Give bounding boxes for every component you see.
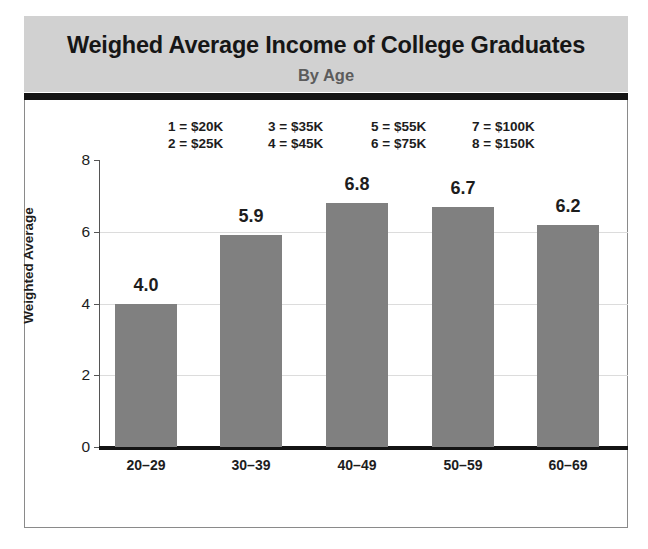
legend-entry: 1 = $20K — [168, 118, 223, 135]
y-tick-label: 4 — [30, 296, 90, 312]
bar[interactable] — [115, 304, 177, 448]
legend-column-1: 1 = $20K 2 = $25K — [168, 118, 223, 152]
y-tick-label: 6 — [30, 224, 90, 240]
legend-entry: 4 = $45K — [268, 135, 323, 152]
bar-value-label: 5.9 — [200, 207, 302, 225]
bar[interactable] — [432, 207, 494, 447]
x-tick-label: 60–69 — [512, 458, 624, 472]
legend-entry: 2 = $25K — [168, 135, 223, 152]
chart-subtitle: By Age — [24, 58, 628, 84]
legend-column-4: 7 = $100K 8 = $150K — [472, 118, 535, 152]
chart-header-band: Weighed Average Income of College Gradua… — [24, 16, 628, 92]
bar-value-label: 4.0 — [95, 276, 197, 294]
bar[interactable] — [220, 235, 282, 447]
chart-legend: 1 = $20K 2 = $25K 3 = $35K 4 = $45K 5 = … — [160, 118, 580, 156]
bar-value-label: 6.8 — [306, 175, 408, 193]
y-tick-label: 8 — [30, 152, 90, 168]
legend-entry: 3 = $35K — [268, 118, 323, 135]
y-tick-label: 0 — [30, 439, 90, 455]
chart-figure: Weighed Average Income of College Gradua… — [0, 0, 648, 549]
legend-entry: 8 = $150K — [472, 135, 535, 152]
x-tick-label: 30–39 — [195, 458, 307, 472]
x-tick-label: 40–49 — [301, 458, 413, 472]
bar-value-label: 6.7 — [412, 179, 514, 197]
legend-entry: 6 = $75K — [371, 135, 426, 152]
legend-entry: 5 = $55K — [371, 118, 426, 135]
y-axis-tick-labels: 02468 — [20, 0, 90, 549]
bar[interactable] — [537, 225, 599, 447]
x-tick-label: 20–29 — [90, 458, 202, 472]
legend-column-3: 5 = $55K 6 = $75K — [371, 118, 426, 152]
chart-title: Weighed Average Income of College Gradua… — [24, 16, 628, 58]
y-tick-label: 2 — [30, 367, 90, 383]
header-divider-rule — [24, 93, 628, 100]
x-tick-label: 50–59 — [407, 458, 519, 472]
legend-entry: 7 = $100K — [472, 118, 535, 135]
bar[interactable] — [326, 203, 388, 447]
bar-value-label: 6.2 — [517, 197, 619, 215]
legend-column-2: 3 = $35K 4 = $45K — [268, 118, 323, 152]
